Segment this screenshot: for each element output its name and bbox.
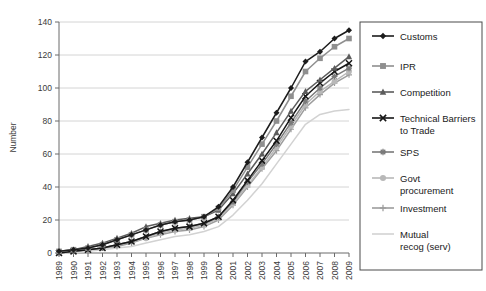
y-tick-label: 0 (47, 248, 52, 258)
legend-label: recog (serv) (400, 241, 451, 252)
legend-label: Mutual (400, 229, 429, 240)
x-tick-label: 2004 (272, 261, 282, 280)
marker-asterisk (380, 149, 386, 155)
x-tick-label: 2006 (301, 261, 311, 280)
y-tick-label: 60 (43, 149, 53, 159)
x-tick-label: 2002 (243, 261, 253, 280)
legend-item-mutual-recog-serv[interactable]: Mutualrecog (serv) (372, 229, 451, 252)
x-tick-label: 2007 (315, 261, 325, 280)
legend-label: to Trade (400, 125, 435, 136)
x-tick-label: 1998 (185, 261, 195, 280)
y-axis-title-group: Number (8, 122, 18, 152)
marker-square (288, 93, 294, 99)
marker-circle (380, 175, 386, 181)
legend-item-customs[interactable]: Customs (372, 31, 438, 42)
legend-item-investment[interactable]: Investment (372, 203, 447, 214)
y-tick-label: 140 (38, 17, 52, 27)
grid-layer (59, 22, 349, 220)
y-axis-title: Number (8, 122, 18, 152)
x-tick-label: 1995 (141, 261, 151, 280)
line-chart: 020406080100120140 198919901991199219931… (0, 0, 486, 291)
y-tick-label: 40 (43, 182, 53, 192)
x-tick-label: 1997 (170, 261, 180, 280)
series-layer (56, 27, 352, 256)
legend-label: Customs (400, 31, 438, 42)
legend-label: procurement (400, 185, 454, 196)
x-tick-label: 1992 (98, 261, 108, 280)
marker-diamond (274, 110, 280, 116)
marker-square (274, 118, 280, 124)
x-tick-label: 1994 (127, 261, 137, 280)
legend-item-technical-barriers-to-trade[interactable]: Technical Barriersto Trade (372, 113, 476, 136)
y-tick-label: 20 (43, 215, 53, 225)
x-tick-label: 1999 (199, 261, 209, 280)
legend-item-sps[interactable]: SPS (372, 147, 419, 158)
legend-label: Govt (400, 173, 420, 184)
marker-square (346, 36, 352, 42)
y-tick-label: 100 (38, 83, 52, 93)
legend-label: Technical Barriers (400, 113, 476, 124)
legend-label: Competition (400, 87, 451, 98)
x-tick-label: 2003 (257, 261, 267, 280)
y-tick-label: 80 (43, 116, 53, 126)
marker-diamond (288, 85, 294, 91)
legend-item-ipr[interactable]: IPR (372, 61, 416, 72)
series-mutual-recog-serv (59, 109, 349, 253)
chart-container: 020406080100120140 198919901991199219931… (0, 0, 486, 291)
x-tick-label: 2009 (344, 261, 354, 280)
y-tick-labels: 020406080100120140 (38, 17, 52, 258)
legend-item-govt-procurement[interactable]: Govtprocurement (372, 173, 454, 196)
x-tick-label: 2008 (330, 261, 340, 280)
legend-label: IPR (400, 61, 416, 72)
series-govt-procurement (56, 69, 352, 256)
legend-item-competition[interactable]: Competition (372, 87, 451, 98)
x-tick-label: 1996 (156, 261, 166, 280)
legend-layer: CustomsIPRCompetitionTechnical Barrierst… (360, 22, 482, 270)
legend-label: SPS (400, 147, 419, 158)
marker-square (303, 69, 309, 75)
x-tick-label: 1993 (112, 261, 122, 280)
marker-triangle (346, 53, 352, 59)
x-tick-labels: 1989199019911992199319941995199619971998… (54, 261, 354, 280)
legend-label: Investment (400, 203, 447, 214)
marker-square (332, 44, 338, 50)
x-tick-label: 1990 (69, 261, 79, 280)
x-tick-label: 2005 (286, 261, 296, 280)
marker-square (380, 63, 386, 69)
y-tick-label: 120 (38, 50, 52, 60)
x-tick-label: 1989 (54, 261, 64, 280)
marker-diamond (346, 27, 352, 33)
x-tick-label: 2001 (228, 261, 238, 280)
series-line (59, 109, 349, 253)
x-tick-label: 1991 (83, 261, 93, 280)
x-tick-label: 2000 (214, 261, 224, 280)
marker-diamond (380, 33, 386, 39)
marker-square (317, 56, 323, 62)
marker-plus (380, 205, 386, 211)
